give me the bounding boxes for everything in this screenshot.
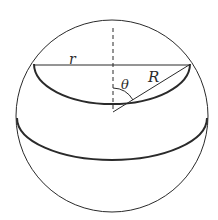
cap-ellipse-back [34,54,190,64]
label-R: R [148,70,159,85]
equator-front [17,118,207,160]
cap-ellipse-front [34,64,190,104]
label-r: r [69,52,76,66]
sphere-diagram [0,0,218,220]
label-theta: θ [121,78,129,91]
sphere-outline [16,20,208,212]
diagram-canvas: r R θ [0,0,218,220]
